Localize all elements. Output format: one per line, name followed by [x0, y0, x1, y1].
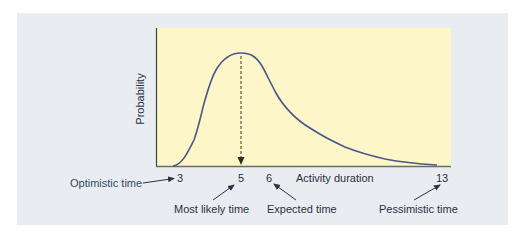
- tick-5: 5: [238, 172, 244, 184]
- tick-3: 3: [177, 172, 183, 184]
- tick-13: 13: [436, 172, 448, 184]
- optimistic-arrow: [143, 179, 174, 184]
- most-likely-arrow: [213, 185, 234, 200]
- plot-area: [157, 28, 451, 166]
- expected-time-label: Expected time: [267, 203, 337, 215]
- pessimistic-time-label: Pessimistic time: [379, 203, 458, 215]
- tick-6: 6: [266, 172, 272, 184]
- x-axis-label: Activity duration: [296, 172, 374, 184]
- pessimistic-arrow: [414, 185, 440, 200]
- most-likely-time-label: Most likely time: [174, 203, 249, 215]
- y-axis-label: Probability: [134, 69, 146, 129]
- expected-arrow: [274, 184, 296, 200]
- optimistic-time-label: Optimistic time: [70, 177, 142, 189]
- pert-distribution-chart: [0, 0, 528, 236]
